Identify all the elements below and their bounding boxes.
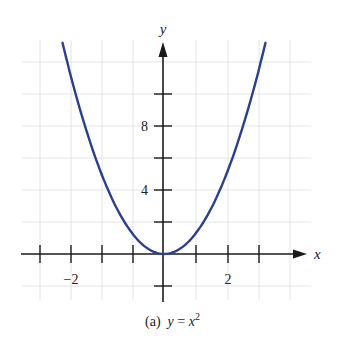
x-axis-arrow-icon (293, 250, 307, 259)
y-tick-label-4: 4 (141, 183, 148, 198)
caption-prefix: (a) (145, 314, 161, 329)
caption-exponent: 2 (195, 311, 200, 322)
figure-caption: (a) y = x2 (0, 311, 345, 330)
caption-lhs: y (168, 314, 174, 329)
x-axis: −2 2 x (21, 245, 321, 287)
parabola-chart: −2 2 x 8 4 y (0, 0, 345, 347)
y-axis-label: y (158, 21, 167, 37)
caption-equals: = (177, 314, 185, 329)
y-tick-label-8: 8 (141, 119, 148, 134)
y-axis-arrow-icon (159, 42, 168, 57)
x-axis-label: x (313, 246, 321, 262)
x-tick-label-neg2: −2 (64, 272, 79, 287)
grid (22, 40, 311, 300)
x-tick-label-2: 2 (225, 272, 232, 287)
y-axis: 8 4 y (141, 21, 172, 302)
